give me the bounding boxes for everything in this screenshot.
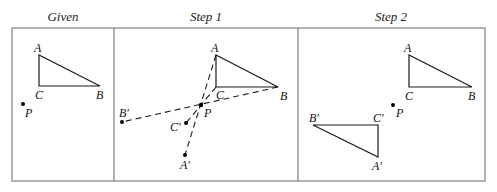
label-p: P [24,106,33,120]
label-c-prime: C′ [170,120,181,134]
point-p [199,103,203,107]
panel-given: A C B P [21,41,104,120]
label-b: B [280,89,288,103]
triangle-a-prime-b-prime-c-prime [313,125,378,157]
rotation-diagram: Given Step 1 Step 2 A C B P A C B P B′ C… [0,0,497,192]
panel-step-1: A C B P B′ C′ A′ [119,41,288,172]
triangle-abc [409,55,472,87]
point-b-prime [120,120,124,124]
label-a: A [33,41,42,55]
triangle-abc [39,55,100,86]
label-c: C [405,89,414,103]
label-a: A [210,41,219,55]
label-b: B [468,89,476,103]
label-b-prime: B′ [309,111,319,125]
triangle-abc [216,55,278,87]
point-p [391,103,395,107]
panel-title-step-1: Step 1 [190,9,222,24]
point-a-prime [183,153,187,157]
label-a-prime: A′ [371,159,382,173]
label-p: P [395,106,404,120]
label-c: C [35,88,44,102]
label-b: B [96,88,104,102]
panel-step-2: A C B P B′ C′ A′ [309,41,476,173]
diagram-frame [12,28,485,181]
panel-title-step-2: Step 2 [375,9,408,24]
label-a-prime: A′ [179,158,190,172]
label-c-prime: C′ [373,111,384,125]
label-a: A [403,41,412,55]
point-c-prime [184,121,188,125]
label-c: C [216,88,225,102]
label-b-prime: B′ [119,106,129,120]
panel-title-given: Given [47,9,78,24]
label-p: P [203,106,212,120]
